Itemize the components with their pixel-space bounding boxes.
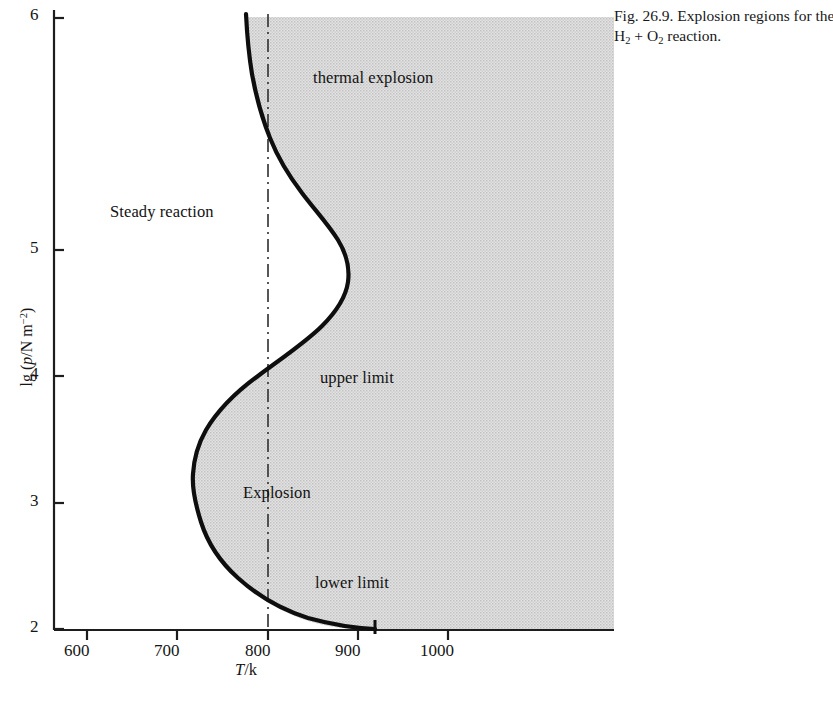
x-axis-ticks	[87, 630, 448, 640]
y-tick-label-2: 2	[30, 617, 39, 637]
caption-formula-tail: reaction.	[663, 27, 721, 44]
x-tick-label-600: 600	[64, 641, 90, 661]
x-tick-label-700: 700	[154, 641, 180, 661]
x-tick-label-1000: 1000	[420, 641, 454, 661]
y-axis-title-exponent: −2	[18, 313, 29, 324]
explosion-shaded-region	[193, 17, 620, 629]
x-tick-label-900: 900	[335, 641, 361, 661]
x-tick-label-800: 800	[245, 641, 271, 661]
plot-canvas	[0, 0, 620, 702]
y-tick-label-3: 3	[30, 491, 39, 511]
caption-formula-plus: + O	[630, 27, 658, 44]
label-steady-reaction: Steady reaction	[110, 202, 214, 222]
label-explosion: Explosion	[243, 483, 311, 503]
y-tick-label-5: 5	[30, 238, 39, 258]
y-axis-title-post: )	[18, 308, 35, 313]
label-upper-limit: upper limit	[320, 368, 394, 388]
label-lower-limit: lower limit	[315, 573, 389, 593]
plot-area: 6 5 4 3 2 600 700 800 900 1000 lg (p/N m…	[0, 0, 620, 702]
y-axis-title-mid: /N m	[18, 324, 35, 356]
y-axis-title-symbol: p	[18, 357, 35, 365]
x-axis-title: T/k	[235, 660, 257, 680]
x-axis-title-unit: /k	[244, 660, 257, 679]
y-axis-title: lg (p/N m−2)	[18, 277, 36, 417]
y-axis-ticks	[54, 18, 64, 629]
label-thermal-explosion: thermal explosion	[313, 68, 433, 88]
caption-line-2: H2 + O2 reaction.	[614, 26, 829, 48]
figure-root: Fig. 26.9. Explosion regions for the H2 …	[0, 0, 833, 702]
figure-caption: Fig. 26.9. Explosion regions for the H2 …	[614, 6, 829, 48]
y-axis-title-pre: lg (	[18, 365, 35, 387]
x-axis-title-symbol: T	[235, 660, 244, 679]
caption-line-1: Fig. 26.9. Explosion regions for the	[614, 6, 829, 26]
y-tick-label-6: 6	[30, 5, 39, 25]
